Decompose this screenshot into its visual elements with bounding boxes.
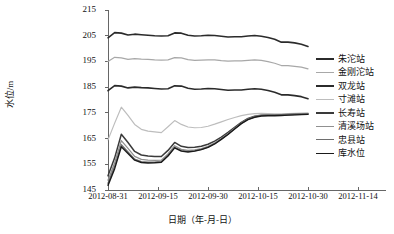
series-line-6	[108, 114, 308, 183]
legend-item[interactable]: 库水位	[316, 147, 394, 161]
y-tick-label: 175	[62, 107, 96, 117]
series-line-1	[108, 57, 308, 69]
legend-swatch-icon	[316, 112, 334, 114]
legend-item[interactable]: 朱沱站	[316, 52, 394, 66]
legend-item[interactable]: 寸滩站	[316, 93, 394, 107]
legend-label: 长寿站	[338, 108, 365, 118]
legend-swatch-icon	[316, 72, 334, 73]
y-tick-label: 185	[62, 81, 96, 91]
series-line-0	[108, 33, 308, 47]
legend-label: 库水位	[338, 148, 365, 158]
legend-item[interactable]: 长寿站	[316, 106, 394, 120]
legend-label: 忠县站	[338, 135, 365, 145]
y-tick-label: 165	[62, 133, 96, 143]
y-tick-label: 155	[62, 158, 96, 168]
legend-item[interactable]: 清溪场站	[316, 120, 394, 134]
y-tick-label: 215	[62, 4, 96, 14]
series-line-2	[108, 86, 308, 99]
legend-label: 朱沱站	[338, 54, 365, 64]
legend-swatch-icon	[316, 126, 334, 127]
x-axis-label: 日期（年-月-日）	[95, 213, 310, 226]
series-line-3	[108, 107, 308, 140]
legend-swatch-icon	[316, 139, 334, 140]
y-tick-label: 205	[62, 30, 96, 40]
legend-swatch-icon	[316, 58, 334, 60]
series-line-7	[108, 114, 308, 185]
legend-label: 清溪场站	[338, 121, 374, 131]
legend-label: 寸滩站	[338, 94, 365, 104]
legend: 朱沱站金刚沱站双龙站寸滩站长寿站清溪场站忠县站库水位	[316, 52, 394, 160]
legend-item[interactable]: 双龙站	[316, 79, 394, 93]
legend-swatch-icon	[316, 153, 334, 154]
legend-swatch-icon	[316, 99, 334, 100]
legend-label: 双龙站	[338, 81, 365, 91]
legend-swatch-icon	[316, 85, 334, 87]
y-axis-label: 水位/m	[3, 60, 16, 130]
legend-item[interactable]: 金刚沱站	[316, 66, 394, 80]
legend-item[interactable]: 忠县站	[316, 133, 394, 147]
series-line-4	[108, 114, 308, 176]
legend-label: 金刚沱站	[338, 67, 374, 77]
chart-figure: 水位/m 日期（年-月-日） 145155165175185195205215 …	[0, 0, 394, 234]
y-tick-label: 195	[62, 55, 96, 65]
x-tick-label: 2012-11-14	[323, 191, 393, 201]
